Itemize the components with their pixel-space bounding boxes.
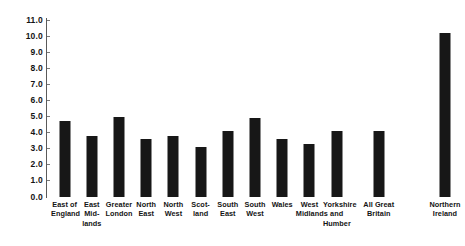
bar <box>59 121 70 197</box>
x-axis-label-line: London <box>105 209 132 218</box>
bar-slot <box>51 14 78 197</box>
x-axis-label: NorthEast <box>133 200 160 219</box>
x-axis-label-line: North <box>160 200 187 209</box>
x-axis-label: NorthWest <box>160 200 187 219</box>
y-axis-tick: 7.0 <box>0 79 52 90</box>
y-axis-tick-label: 7.0 <box>31 79 43 90</box>
x-axis-label: EastMid-lands <box>78 200 105 228</box>
y-axis-tick-label: 1.0 <box>31 175 43 186</box>
y-axis-tick: 4.0 <box>0 127 52 138</box>
x-axis-label-line: Greater <box>105 200 132 209</box>
x-axis-label: GreaterLondon <box>105 200 132 219</box>
bar <box>304 144 315 197</box>
x-axis-label-line: Mid- <box>78 209 105 218</box>
bar <box>331 131 342 197</box>
bar-slot <box>214 14 241 197</box>
x-axis-label: NorthernIreland <box>424 200 465 219</box>
bar <box>439 33 450 197</box>
y-axis-tick: 8.0 <box>0 63 52 74</box>
bar-slot <box>78 14 105 197</box>
bar-slot <box>160 14 187 197</box>
x-axis-label: SouthEast <box>214 200 241 219</box>
y-axis-tick-label: 8.0 <box>31 63 43 74</box>
x-axis-label-line: Wales <box>269 200 296 209</box>
x-axis-label-line: Scot- <box>187 200 214 209</box>
y-axis-tick: 1.0 <box>0 175 52 186</box>
x-axis-label-line: South <box>241 200 268 209</box>
x-axis-label-line: Ireland <box>424 209 465 218</box>
y-axis-tick: 11.0 <box>0 15 52 26</box>
bar <box>277 139 288 197</box>
y-axis-tick: 2.0 <box>0 159 52 170</box>
bar-slot <box>269 14 296 197</box>
x-axis-label-line: Yorkshire <box>323 200 350 209</box>
bar <box>86 136 97 197</box>
x-axis-label: SouthWest <box>241 200 268 219</box>
x-axis-label-line: East of <box>51 200 78 209</box>
x-axis-label-line: West <box>160 209 187 218</box>
y-axis-tick: 5.0 <box>0 111 52 122</box>
y-axis-tick-label: 3.0 <box>31 143 43 154</box>
x-axis-label-line: South <box>214 200 241 209</box>
y-axis-tick-label: 10.0 <box>26 31 43 42</box>
x-axis-label-line: Humber <box>323 219 350 228</box>
y-axis-tick-label: 11.0 <box>26 15 43 26</box>
x-axis-label-line: Northern <box>424 200 465 209</box>
x-axis-labels: East ofEnglandEastMid-landsGreaterLondon… <box>47 200 443 246</box>
x-axis-label-line: East <box>133 209 160 218</box>
y-axis-tick: 10.0 <box>0 31 52 42</box>
bar <box>113 117 124 197</box>
x-axis-label: Scot-land <box>187 200 214 219</box>
x-axis-label-line: and <box>323 209 350 218</box>
y-axis-tick: 3.0 <box>0 143 52 154</box>
bar <box>195 147 206 197</box>
y-axis-tick: 6.0 <box>0 95 52 106</box>
bar-slot <box>241 14 268 197</box>
bar-slot <box>296 14 323 197</box>
y-axis-tick-label: 0.0 <box>31 192 43 203</box>
bar-slot <box>323 14 350 197</box>
y-axis-tick: 9.0 <box>0 47 52 58</box>
x-axis-label-line: Britain <box>358 209 399 218</box>
x-axis-label: YorkshireandHumber <box>323 200 350 228</box>
bar-slot <box>431 14 458 197</box>
bar-slot <box>105 14 132 197</box>
x-axis-label-line: lands <box>78 219 105 228</box>
bar-slot <box>187 14 214 197</box>
bar <box>168 136 179 197</box>
x-axis-label: Wales <box>269 200 296 209</box>
bar <box>141 139 152 197</box>
y-axis-tick-label: 5.0 <box>31 111 43 122</box>
y-axis-tick-label: 4.0 <box>31 127 43 138</box>
x-axis-label-line: East <box>78 200 105 209</box>
x-axis-label-line: North <box>133 200 160 209</box>
bar-slot <box>365 14 392 197</box>
x-axis-label: WestMidlands <box>296 200 323 219</box>
plot-area <box>47 14 443 197</box>
x-axis-label-line: Midlands <box>296 209 323 218</box>
x-axis-label-line: England <box>51 209 78 218</box>
y-axis-tick-label: 6.0 <box>31 95 43 106</box>
y-axis-tick-label: 2.0 <box>31 159 43 170</box>
x-axis-label-line: West <box>296 200 323 209</box>
y-axis-tick-label: 9.0 <box>31 47 43 58</box>
x-axis-label: East ofEngland <box>51 200 78 219</box>
x-axis-label-line: land <box>187 209 214 218</box>
y-axis-tick: 0.0 <box>0 192 52 203</box>
bar <box>249 118 260 197</box>
x-axis-label-line: All Great <box>358 200 399 209</box>
bar <box>373 131 384 197</box>
bar <box>222 131 233 197</box>
x-axis-label-line: West <box>241 209 268 218</box>
x-axis-label: All GreatBritain <box>358 200 399 219</box>
bar-slot <box>133 14 160 197</box>
x-axis-label-line: East <box>214 209 241 218</box>
